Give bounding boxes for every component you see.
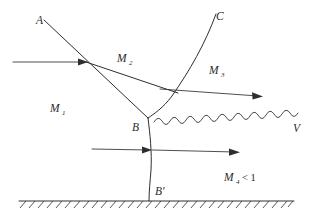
label-region-2-subscript: 2 bbox=[129, 59, 133, 67]
hatched-wall bbox=[19, 201, 294, 208]
label-region-3: M 3 bbox=[208, 64, 225, 79]
label-triple-point-B: B bbox=[132, 121, 139, 133]
label-region-2-symbol: M bbox=[116, 52, 128, 64]
label-region-3-symbol: M bbox=[208, 64, 220, 76]
label-region-4-relation: < 1 bbox=[242, 172, 256, 183]
mach-stem-shock bbox=[148, 118, 151, 201]
label-region-1: M 1 bbox=[49, 102, 66, 117]
label-reflected-shock-C: C bbox=[216, 10, 224, 22]
label-region-4-symbol: M bbox=[223, 171, 235, 183]
label-region-2: M 2 bbox=[116, 52, 133, 67]
upstream-flow-arrow bbox=[13, 58, 88, 65]
figure-canvas: A C B B′ V M 1 M 2 M 3 M 4 < 1 bbox=[0, 0, 311, 220]
label-slip-line-V: V bbox=[293, 122, 302, 134]
label-region-1-subscript: 1 bbox=[62, 109, 66, 117]
label-region-4-subscript: 4 bbox=[236, 178, 240, 186]
label-region-4: M 4 < 1 bbox=[223, 171, 256, 186]
label-foot-point-B-prime: B′ bbox=[155, 185, 165, 197]
label-region-3-subscript: 3 bbox=[220, 71, 225, 79]
label-region-1-symbol: M bbox=[49, 102, 61, 114]
incident-shock-line bbox=[44, 20, 148, 118]
reflected-shock-curve bbox=[148, 14, 216, 118]
region-4-flow-arrow bbox=[92, 146, 240, 155]
shock-reflection-diagram: A C B B′ V M 1 M 2 M 3 M 4 < 1 bbox=[0, 0, 311, 220]
label-incident-shock-A: A bbox=[35, 14, 44, 26]
wavy-slip-line bbox=[154, 110, 298, 124]
